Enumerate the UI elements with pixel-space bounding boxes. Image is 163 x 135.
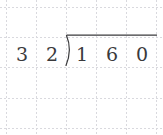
dividend-digit-2: 0	[132, 45, 152, 64]
divisor-digit-1: 2	[42, 45, 62, 64]
dividend-digit-1: 6	[102, 45, 122, 64]
divisor-digit-0: 3	[12, 45, 32, 64]
grid-line-horizontal	[0, 37, 163, 38]
grid-line-horizontal	[0, 67, 163, 68]
grid-line-horizontal	[0, 7, 163, 8]
graph-paper-grid	[0, 0, 163, 135]
grid-line-horizontal	[0, 128, 163, 129]
grid-line-horizontal	[0, 98, 163, 99]
dividend-digit-0: 1	[72, 45, 92, 64]
worksheet-canvas: 3 2 1 6 0	[0, 0, 163, 135]
